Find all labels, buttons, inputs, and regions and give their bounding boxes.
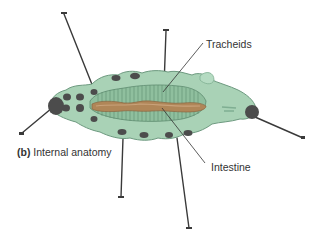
pin-bottom-left (121, 138, 123, 197)
label-intestine: Intestine (211, 162, 251, 173)
pin-left (22, 108, 52, 133)
caption-letter: (b) (17, 146, 30, 158)
pin-right (255, 117, 303, 138)
label-tracheids: Tracheids (206, 39, 252, 50)
caption-text: Internal anatomy (33, 146, 111, 158)
dissection-diagram (0, 0, 319, 243)
figure-caption: (b) Internal anatomy (17, 147, 112, 158)
pin-bottom-right (177, 138, 189, 228)
pin-top-left (64, 14, 95, 92)
